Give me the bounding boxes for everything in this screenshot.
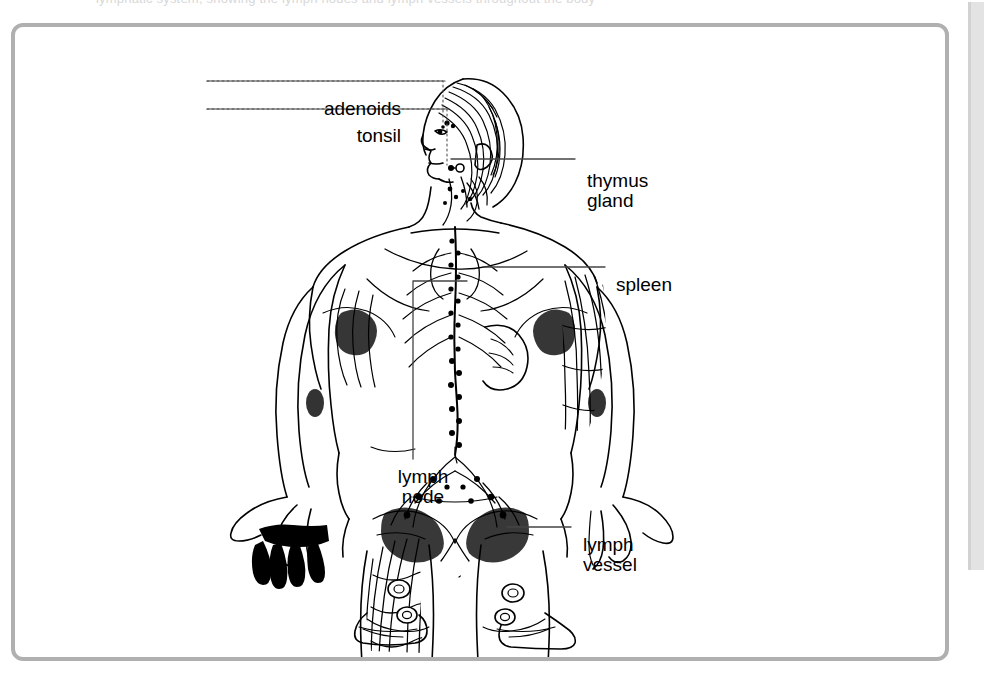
- right-margin-panel: [968, 2, 984, 570]
- label-lymph-vessel: lymph vessel: [583, 535, 733, 575]
- page-scan: lymphatic system, showing the lymph node…: [0, 0, 984, 679]
- lymphatic-system-illustration: [15, 27, 945, 657]
- label-lymph-node: lymph node: [377, 467, 469, 507]
- label-spleen: spleen: [616, 275, 776, 295]
- clipped-header-text: lymphatic system, showing the lymph node…: [96, 0, 856, 6]
- label-tonsil: tonsil: [221, 126, 401, 146]
- figure-box: adenoids tonsil thymus gland spleen lymp…: [11, 23, 949, 661]
- label-thymus-gland: thymus gland: [587, 171, 747, 211]
- label-adenoids: adenoids: [221, 99, 401, 119]
- leader-lymph-node: [413, 281, 467, 459]
